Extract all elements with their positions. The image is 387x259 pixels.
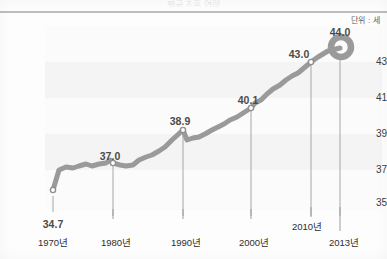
chart-title-cropped: 평균 초혼 연령: [0, 0, 387, 7]
data-label-1990: 38.9: [170, 115, 190, 127]
background-band: [45, 62, 382, 98]
header-divider: [0, 11, 387, 13]
data-label-2010: 43.0: [289, 48, 309, 60]
plot-area: [45, 26, 382, 210]
y-axis-tick-label: 39: [357, 129, 387, 139]
x-axis-tick-label-1970: 1970년: [38, 235, 68, 249]
background-band: [45, 170, 382, 210]
data-label-1980: 37.0: [100, 150, 120, 162]
y-axis-tick-label: 37: [357, 165, 387, 175]
x-axis-tick-label-2000: 2000년: [239, 235, 269, 249]
data-label-2000: 40.1: [238, 94, 258, 106]
data-label-1970: 34.7: [43, 218, 63, 230]
background-band: [45, 134, 382, 170]
x-axis-tick-label-2010: 2010년: [292, 219, 322, 233]
data-label-2013: 44.0: [330, 26, 350, 38]
x-axis-tick-label-2013: 2013년: [329, 235, 359, 249]
unit-label: 단위 : 세: [351, 14, 380, 25]
x-axis-tick-label-1980: 1980년: [101, 235, 131, 249]
y-axis-tick-label: 35: [357, 198, 387, 208]
y-axis-tick-label: 43: [357, 57, 387, 67]
x-axis-tick-label-1990: 1990년: [171, 235, 201, 249]
chart-container: 평균 초혼 연령 단위 : 세 43 41 39 37 35: [0, 0, 387, 259]
y-axis-tick-label: 41: [357, 93, 387, 103]
background-band: [45, 98, 382, 134]
